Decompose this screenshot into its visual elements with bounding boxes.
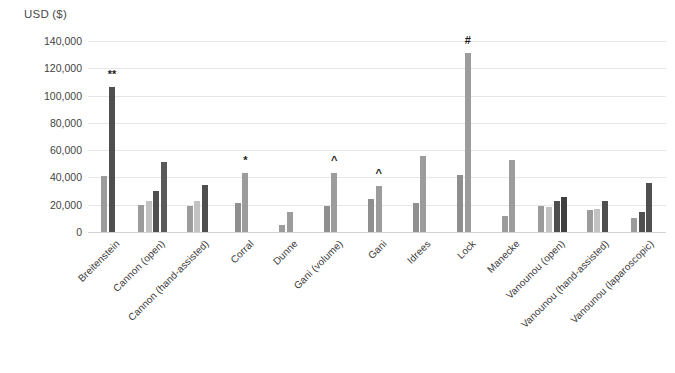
y-axis-tick-labels: 140,000120,000100,00080,00060,00040,0002… bbox=[0, 41, 82, 232]
y-tick-label: 120,000 bbox=[8, 62, 82, 74]
y-tick-label: 80,000 bbox=[8, 117, 82, 129]
y-tick-label: 40,000 bbox=[8, 171, 82, 183]
y-tick-label: 20,000 bbox=[8, 199, 82, 211]
bar bbox=[146, 201, 152, 232]
bar bbox=[465, 53, 471, 232]
bar-annotation: ^ bbox=[376, 167, 382, 179]
y-tick-label: 100,000 bbox=[8, 90, 82, 102]
x-tick-label: Breitenstein bbox=[76, 238, 122, 284]
y-tick-label: 0 bbox=[8, 226, 82, 238]
bar bbox=[587, 210, 593, 232]
bar bbox=[420, 156, 426, 232]
bar bbox=[546, 207, 552, 232]
bar bbox=[413, 203, 419, 232]
x-tick-label: Lock bbox=[455, 238, 478, 261]
x-tick-label: Idrees bbox=[405, 238, 433, 266]
bar-chart: USD ($) 140,000120,000100,00080,00060,00… bbox=[0, 0, 675, 373]
y-tick-label: 140,000 bbox=[8, 35, 82, 47]
bar bbox=[287, 212, 293, 232]
bar bbox=[538, 206, 544, 232]
bar bbox=[646, 183, 652, 232]
x-tick-label: Cannon (hand-assisted) bbox=[126, 238, 211, 323]
bar bbox=[279, 225, 285, 232]
bar bbox=[109, 87, 115, 232]
x-tick-label: Vanounou (hand-assisted) bbox=[519, 238, 611, 330]
bar bbox=[194, 201, 200, 232]
bar bbox=[242, 173, 248, 232]
bar bbox=[376, 186, 382, 232]
bar bbox=[324, 206, 330, 232]
bar bbox=[101, 176, 107, 232]
bar bbox=[235, 203, 241, 232]
x-tick-label: Corral bbox=[228, 238, 255, 265]
bar bbox=[561, 197, 567, 232]
bar bbox=[161, 162, 167, 232]
y-axis-title: USD ($) bbox=[24, 8, 67, 20]
y-tick-label: 60,000 bbox=[8, 144, 82, 156]
bar bbox=[202, 185, 208, 232]
x-axis-tick-labels: BreitensteinCannon (open)Cannon (hand-as… bbox=[88, 232, 666, 373]
bars-layer: ***^^# bbox=[88, 41, 666, 232]
bar-annotation: ^ bbox=[331, 154, 337, 166]
bar bbox=[554, 201, 560, 232]
bar bbox=[594, 209, 600, 232]
x-tick-label: Manecke bbox=[485, 238, 522, 275]
x-tick-label: Gani bbox=[366, 238, 389, 261]
bar bbox=[602, 201, 608, 232]
bar bbox=[457, 175, 463, 232]
bar bbox=[502, 216, 508, 232]
bar bbox=[138, 205, 144, 232]
bar-annotation: # bbox=[465, 34, 471, 46]
bar bbox=[187, 206, 193, 232]
bar bbox=[509, 160, 515, 232]
bar-annotation: * bbox=[243, 154, 247, 166]
bar bbox=[631, 218, 637, 232]
bar bbox=[639, 212, 645, 232]
bar bbox=[368, 199, 374, 232]
bar bbox=[153, 191, 159, 232]
bar bbox=[331, 173, 337, 232]
x-tick-label: Vanounou (laparoscopic) bbox=[568, 238, 656, 326]
x-tick-label: Dunne bbox=[271, 238, 300, 267]
bar-annotation: ** bbox=[108, 68, 117, 80]
